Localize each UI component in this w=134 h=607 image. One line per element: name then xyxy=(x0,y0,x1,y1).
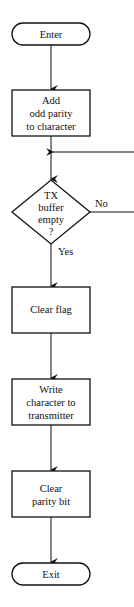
add-parity-line-1: Add xyxy=(42,95,61,106)
write-line-1: Write xyxy=(39,384,63,395)
no-label: No xyxy=(95,198,108,209)
clear-parity-box: Clear parity bit xyxy=(12,471,90,517)
clear-parity-line-1: Clear xyxy=(40,483,63,494)
exit-label: Exit xyxy=(42,569,60,580)
exit-terminator: Exit xyxy=(12,563,90,585)
decision-line-2: buffer xyxy=(38,202,64,213)
add-parity-line-2: odd parity xyxy=(30,108,74,119)
clear-parity-line-2: parity bit xyxy=(32,496,70,507)
decision-line-1: TX xyxy=(44,190,58,201)
write-line-3: transmitter xyxy=(28,410,74,421)
enter-terminator: Enter xyxy=(12,23,90,45)
add-parity-line-3: to character xyxy=(26,121,76,132)
add-parity-box: Add odd parity to character xyxy=(12,90,90,136)
flowchart: Enter Add odd parity to character TX buf… xyxy=(0,0,134,607)
enter-label: Enter xyxy=(40,29,63,40)
clear-flag-box: Clear flag xyxy=(12,287,90,333)
write-line-2: character to xyxy=(26,397,75,408)
decision-line-4: ? xyxy=(49,226,54,237)
tx-buffer-empty-decision: TX buffer empty ? xyxy=(12,180,90,244)
write-character-box: Write character to transmitter xyxy=(12,379,90,425)
yes-label: Yes xyxy=(58,246,73,257)
decision-line-3: empty xyxy=(38,214,65,225)
clear-flag-label: Clear flag xyxy=(30,304,72,315)
